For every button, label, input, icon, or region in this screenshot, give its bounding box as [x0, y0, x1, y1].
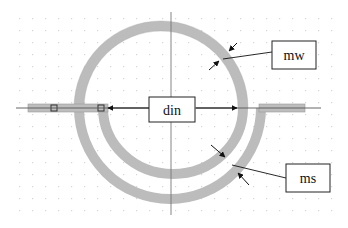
din-label: din — [163, 103, 181, 118]
mw-label: mw — [284, 48, 306, 63]
ms-label: ms — [300, 171, 316, 186]
spiral-inductor-diagram: din mw ms — [0, 0, 348, 228]
